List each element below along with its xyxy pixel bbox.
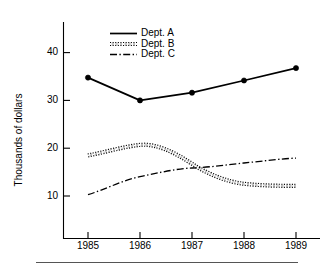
chart-figure: 40 30 20 10 1985 1986 1987 1988 1989: [0, 0, 336, 271]
series-a-marker-1985: [85, 75, 90, 80]
x-tick-label-1988: 1988: [233, 240, 256, 251]
x-tick-label-1986: 1986: [129, 240, 152, 251]
y-tick-label-30: 30: [47, 94, 59, 105]
y-tick-label-40: 40: [47, 46, 59, 57]
x-tick-label-1985: 1985: [77, 240, 100, 251]
series-a-marker-1988: [241, 78, 246, 83]
y-axis-title: Thousands of dollars: [13, 94, 24, 187]
x-tick-label-1987: 1987: [181, 240, 204, 251]
y-tick-label-20: 20: [47, 142, 59, 153]
y-tick-label-10: 10: [47, 190, 59, 201]
series-a-marker-1986: [137, 98, 142, 103]
line-chart: 40 30 20 10 1985 1986 1987 1988 1989: [0, 0, 336, 271]
legend-label-dept-a: Dept. A: [141, 27, 174, 38]
legend-label-dept-c: Dept. C: [141, 48, 175, 59]
x-tick-label-1989: 1989: [285, 240, 308, 251]
series-a-marker-1989: [293, 66, 298, 71]
legend-label-dept-b: Dept. B: [141, 38, 175, 49]
series-a-marker-1987: [189, 90, 194, 95]
